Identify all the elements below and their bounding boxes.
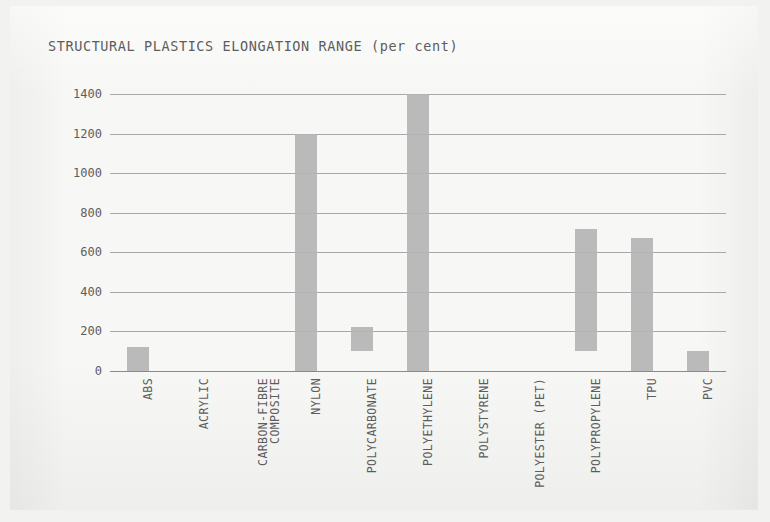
y-axis: 0200400600800100012001400 — [42, 94, 102, 371]
y-tick-label: 1400 — [44, 87, 102, 101]
x-tick-label: TPU — [646, 378, 658, 498]
plot-area — [110, 94, 726, 371]
y-tick-label: 0 — [44, 364, 102, 378]
y-tick-label: 1200 — [44, 127, 102, 141]
bar-polypropylene — [575, 229, 597, 352]
x-tick-label: PVC — [702, 378, 714, 498]
x-axis-labels: ABSACRYLICCARBON-FIBRE COMPOSITENYLONPOL… — [110, 372, 726, 502]
x-tick-label: POLYCARBONATE — [366, 378, 378, 498]
bar-abs — [127, 347, 149, 371]
x-tick-label: POLYSTYRENE — [478, 378, 490, 498]
bar-nylon — [295, 134, 317, 371]
x-tick-label: ABS — [142, 378, 154, 498]
page-background: STRUCTURAL PLASTICS ELONGATION RANGE (pe… — [0, 0, 770, 522]
x-tick-label: NYLON — [310, 378, 322, 498]
bar-polycarbonate — [351, 327, 373, 351]
x-tick-label: POLYPROPYLENE — [590, 378, 602, 498]
y-tick-label: 400 — [44, 285, 102, 299]
chart-sheet: STRUCTURAL PLASTICS ELONGATION RANGE (pe… — [10, 6, 758, 510]
bar-tpu — [631, 238, 653, 371]
x-tick-label: POLYETHYLENE — [422, 378, 434, 498]
x-tick-label: ACRYLIC — [198, 378, 210, 498]
y-tick-label: 800 — [44, 206, 102, 220]
y-tick-label: 200 — [44, 324, 102, 338]
bar-polyethylene — [407, 94, 429, 371]
y-tick-label: 1000 — [44, 166, 102, 180]
page-title: STRUCTURAL PLASTICS ELONGATION RANGE (pe… — [48, 38, 458, 54]
x-tick-label: POLYESTER (PET) — [534, 378, 546, 498]
x-tick-label: CARBON-FIBRE COMPOSITE — [257, 378, 281, 498]
y-tick-label: 600 — [44, 245, 102, 259]
bar-pvc — [687, 351, 709, 371]
